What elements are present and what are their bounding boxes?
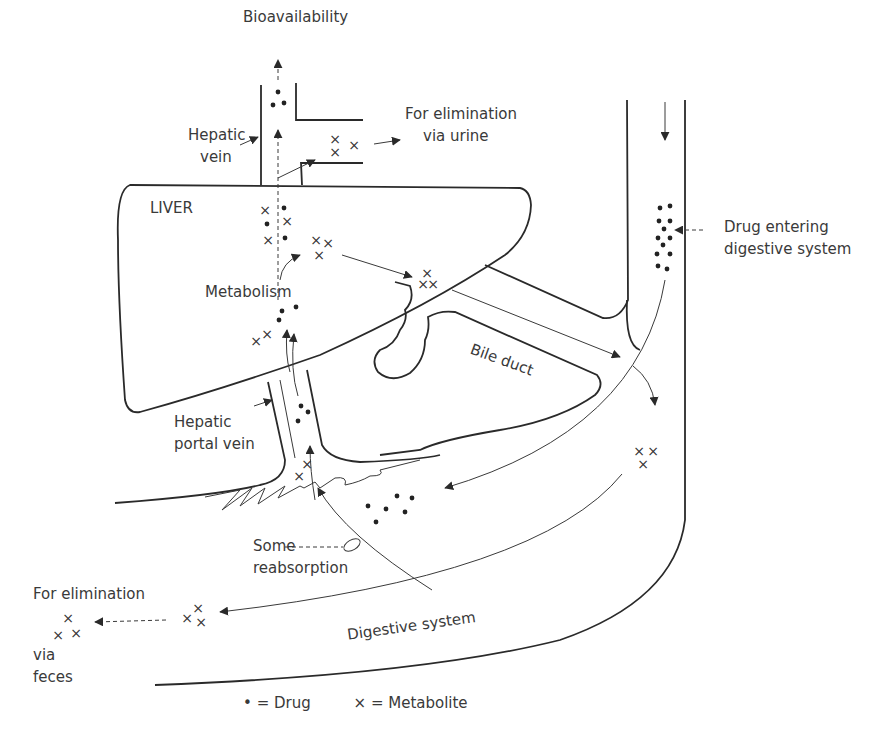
legend-drug-label: = Drug: [257, 694, 311, 712]
hepatic-portal-vein: [115, 370, 440, 510]
svg-text:×: ×: [62, 610, 74, 626]
label-reabsorption-1: Some: [253, 537, 296, 556]
svg-text:×: ×: [310, 232, 322, 248]
label-hepatic-portal-1: Hepatic: [174, 413, 232, 432]
svg-text:×: ×: [293, 468, 305, 484]
legend: • = Drug × = Metabolite: [243, 694, 468, 712]
label-elimination-urine-1: For elimination: [405, 105, 517, 124]
liver-shape: [118, 185, 531, 412]
svg-text:×: ×: [181, 610, 193, 626]
svg-text:×: ×: [261, 326, 273, 342]
drug-dots: [265, 90, 673, 525]
label-elimination-feces-2: via: [33, 646, 55, 665]
svg-text:×: ×: [259, 202, 271, 218]
label-elimination-urine-2: via urine: [423, 127, 489, 146]
svg-text:×: ×: [52, 627, 64, 643]
hepatic-vein: [261, 83, 363, 185]
label-bioavailability: Bioavailability: [243, 8, 348, 27]
svg-text:×: ×: [70, 625, 82, 641]
label-hepatic-portal-2: portal vein: [174, 435, 255, 454]
svg-text:×: ×: [250, 333, 262, 349]
label-elimination-feces-3: feces: [33, 668, 73, 687]
label-elimination-feces-1: For elimination: [33, 585, 145, 604]
metabolite-crosses: ××× ××× ××× ××× ×× ×× ××× ××× ×××: [52, 131, 659, 643]
label-metabolism: Metabolism: [205, 283, 292, 302]
legend-metabolite-label: = Metabolite: [371, 694, 468, 712]
label-reabsorption-2: reabsorption: [253, 559, 348, 578]
label-drug-entering-1: Drug entering: [724, 218, 829, 237]
svg-text:×: ×: [281, 213, 293, 229]
label-hepatic-vein-1: Hepatic: [188, 126, 246, 145]
label-drug-entering-2: digestive system: [724, 240, 851, 259]
svg-text:×: ×: [427, 276, 439, 292]
svg-text:×: ×: [647, 443, 659, 459]
svg-text:×: ×: [313, 247, 325, 263]
legend-drug-symbol: •: [243, 694, 252, 712]
svg-text:×: ×: [329, 144, 341, 160]
legend-metabolite-symbol: ×: [354, 694, 367, 712]
svg-text:×: ×: [348, 137, 360, 153]
bile-duct: [374, 100, 628, 430]
svg-text:×: ×: [195, 614, 207, 630]
label-hepatic-vein-2: vein: [200, 148, 232, 167]
svg-text:×: ×: [262, 232, 274, 248]
label-liver: LIVER: [150, 199, 193, 218]
flow-arrows: [95, 60, 703, 622]
svg-text:×: ×: [637, 456, 649, 472]
